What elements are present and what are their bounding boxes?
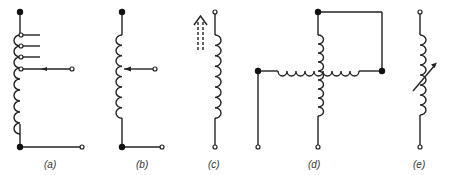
inductor-symbols-figure bbox=[0, 0, 450, 175]
solid-junction-dots bbox=[17, 9, 385, 150]
panel-label-d: (d) bbox=[308, 159, 320, 170]
panel-label-b: (b) bbox=[136, 159, 148, 170]
panel-label-a: (a) bbox=[44, 159, 56, 170]
panel-c-adjustable-core-inductor bbox=[194, 13, 221, 145]
panel-b-movable-tap-inductor bbox=[116, 12, 162, 147]
arrowhead-icon bbox=[124, 67, 131, 72]
arrowhead-icon bbox=[41, 67, 47, 71]
panel-a-tapped-inductor bbox=[14, 12, 82, 147]
panel-label-e: (e) bbox=[413, 159, 425, 170]
panel-d-crossed-inductors bbox=[258, 12, 382, 145]
arrowhead-icon bbox=[431, 63, 437, 69]
panel-label-c: (c) bbox=[208, 159, 220, 170]
panel-e-variable-inductor bbox=[413, 12, 435, 145]
